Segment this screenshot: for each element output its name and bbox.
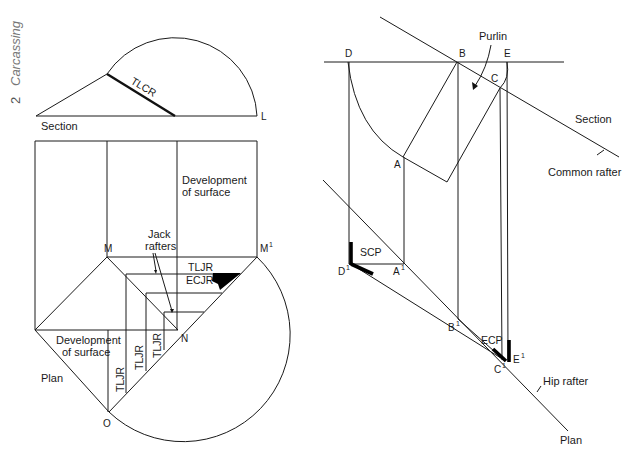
dev-lower-label-2: of surface [62, 346, 110, 358]
chapter-marker: 2 Carcassing [8, 20, 23, 104]
jack-arrow-2 [155, 253, 172, 311]
point-C1-label: C [494, 364, 501, 375]
plan-geometry: Jack rafters TLJR ECJR Development of su… [35, 228, 290, 442]
tljr-top-label: TLJR [188, 261, 214, 273]
scp-label: SCP [360, 246, 382, 258]
point-A1-label: A [393, 266, 400, 277]
section-arc [107, 38, 257, 116]
hip-rafter-pointer [537, 386, 541, 392]
point-D1-label: D [338, 266, 345, 277]
hip-plan: SCP ECP Hip rafter Plan D 1 A 1 B 1 C 1 … [323, 180, 589, 446]
chapter-title: Carcassing [8, 20, 23, 86]
dev-upper-label-2: of surface [182, 186, 230, 198]
point-C-label: C [491, 73, 498, 84]
section-elevation: Section TLCR L [36, 38, 267, 132]
hip-rafter-label: Hip rafter [543, 375, 589, 387]
roof-geometry-figure: 2 Carcassing Section TLCR L Development … [0, 0, 642, 467]
point-D-label: D [345, 48, 352, 59]
arrowhead-icon [154, 270, 157, 274]
purlin-bottom-edge [403, 157, 447, 182]
tljr-vert-label-3: TLJR [151, 332, 163, 358]
plan-label-right: Plan [560, 434, 582, 446]
jack-rafters-label-1: Jack [148, 228, 171, 240]
point-O-label: O [103, 418, 111, 429]
line-left-M [35, 257, 107, 330]
point-E1-label: E [513, 354, 520, 365]
point-A-label: A [394, 159, 401, 170]
section-left-slope [36, 74, 107, 116]
right-figure: Purlin Section Common rafter D B E C A S… [323, 17, 622, 446]
tljr-vert-label-2: TLJR [133, 344, 145, 370]
point-C1-sup: 1 [502, 362, 506, 369]
point-A1-sup: 1 [401, 264, 405, 271]
point-E-label: E [504, 48, 511, 59]
line-C-corner [447, 88, 500, 182]
point-M1-label: M [260, 243, 268, 254]
tljr-vert-label-1: TLJR [114, 366, 126, 392]
point-N-label: N [181, 333, 188, 344]
scp-diagonal-bar [351, 264, 373, 274]
ecjr-label: ECJR [186, 274, 214, 286]
ecp-label: ECP [481, 334, 503, 346]
left-figure: Section TLCR L Development of surface [35, 38, 290, 442]
arc-D-A [348, 62, 403, 157]
jack-rafters-label-2: rafters [145, 240, 177, 252]
common-rafter-pointer [597, 150, 604, 155]
section-label-right: Section [575, 113, 612, 125]
ecjr-wedge [212, 273, 241, 290]
purlin-section: Purlin Section Common rafter D B E C A [324, 17, 622, 360]
point-M1-sup: 1 [269, 241, 273, 248]
dev-lower-label-1: Development [56, 334, 121, 346]
line-B-A [403, 62, 457, 157]
dev-upper-label-1: Development [182, 174, 247, 186]
projector-E [507, 62, 508, 360]
purlin-arrow [475, 45, 491, 86]
projector-C [500, 88, 502, 360]
point-E1-sup: 1 [521, 352, 525, 359]
hip-rafter-line [323, 180, 568, 431]
point-L-label: L [261, 111, 267, 122]
point-M-label: M [104, 243, 112, 254]
point-D1-sup: 1 [346, 264, 350, 271]
chapter-number: 2 [8, 97, 23, 104]
plan-label: Plan [41, 372, 63, 384]
common-rafter-label: Common rafter [548, 166, 622, 178]
section-label: Section [41, 120, 78, 132]
point-B-label: B [459, 48, 466, 59]
point-B1-label: B [448, 322, 455, 333]
tlcr-label: TLCR [129, 74, 159, 99]
ecp-diagonal-bar [493, 349, 506, 361]
purlin-label: Purlin [479, 30, 507, 42]
point-B1-sup: 1 [456, 320, 460, 327]
